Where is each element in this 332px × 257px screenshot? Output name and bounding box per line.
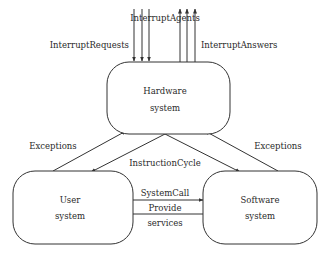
- hardware-label-line1: Hardware: [143, 86, 186, 96]
- interrupt-agents-label: InterruptAgents: [130, 13, 200, 23]
- software-label-line1: Software: [241, 195, 280, 205]
- interrupt-answers-label: InterruptAnswers: [201, 40, 277, 50]
- hardware-label-line2: system: [150, 103, 180, 113]
- exceptions-right-label: Exceptions: [254, 141, 301, 151]
- system-call-label: SystemCall: [141, 188, 190, 198]
- user-label-line2: system: [55, 211, 85, 221]
- exceptions-left-arrow: [53, 131, 126, 171]
- instruction-cycle-label: InstructionCycle: [129, 158, 200, 168]
- provide-services-label-line1: Provide: [149, 203, 182, 213]
- exceptions-left-label: Exceptions: [29, 141, 76, 151]
- user-system-node: [13, 171, 133, 244]
- system-diagram: InterruptAgents InterruptRequests Interr…: [0, 0, 332, 257]
- provide-services-label-line2: services: [147, 218, 182, 228]
- exceptions-right-arrow: [205, 131, 278, 171]
- software-system-node: [203, 171, 317, 244]
- interrupt-requests-label: InterruptRequests: [50, 40, 129, 50]
- software-label-line2: system: [245, 211, 275, 221]
- user-label-line1: User: [60, 195, 82, 205]
- hardware-system-node: [107, 62, 230, 134]
